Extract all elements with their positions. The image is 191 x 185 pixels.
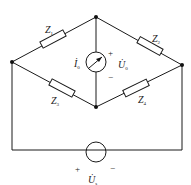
z3-label: Z3 xyxy=(51,95,60,107)
source-minus-sign: − xyxy=(110,163,115,173)
z2-label: Z2 xyxy=(152,33,161,45)
meter-plus-sign: + xyxy=(108,48,113,58)
junction-nodes xyxy=(10,15,184,109)
right-node-dot xyxy=(180,63,184,67)
impedance-z4 xyxy=(123,79,149,97)
meter-voltage-label: U̇0 xyxy=(118,59,128,71)
z1-label: Z1 xyxy=(45,24,54,36)
meter-current-label: İ0 xyxy=(73,58,80,70)
source-voltage-label: U̇s xyxy=(88,174,97,185)
bottom-node-dot xyxy=(94,105,98,109)
source-circle-icon xyxy=(86,142,106,162)
left-node-dot xyxy=(10,60,14,64)
voltage-source xyxy=(86,142,106,162)
z4-label: Z4 xyxy=(138,94,147,106)
top-node-dot xyxy=(94,15,98,19)
source-plus-sign: + xyxy=(75,164,80,174)
meter-minus-sign: − xyxy=(108,72,113,82)
ammeter-voltmeter xyxy=(86,52,106,72)
resistor-icon xyxy=(123,79,149,97)
bridge-circuit-diagram: Z1 Z2 Z3 Z4 İ0 + U̇0 − + − U̇s xyxy=(0,0,191,185)
